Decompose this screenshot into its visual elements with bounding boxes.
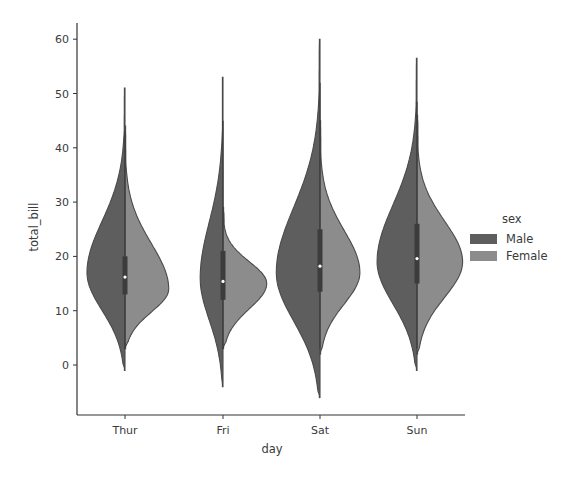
legend-swatch-female [470, 251, 497, 261]
violin-male-sun [377, 58, 417, 370]
y-tick-label: 20 [55, 250, 69, 263]
iqr-box-fri [221, 251, 226, 300]
y-tick-label: 30 [55, 196, 69, 209]
y-axis-ticks: 0102030405060 [55, 33, 77, 372]
median-dot-sun [415, 257, 418, 260]
x-axis-label: day [261, 442, 282, 456]
iqr-box-sun [415, 224, 420, 284]
y-tick-label: 0 [62, 359, 69, 372]
y-axis-label: total_bill [27, 203, 41, 252]
y-tick-label: 10 [55, 305, 69, 318]
y-tick-label: 50 [55, 88, 69, 101]
violin-female-fri [223, 208, 267, 349]
legend-item-male: Male [470, 230, 548, 247]
iqr-box-sat [318, 229, 323, 291]
median-dot-sat [318, 265, 321, 268]
violin-female-sat [320, 121, 360, 354]
x-tick-label-fri: Fri [216, 424, 229, 437]
x-axis-ticks: ThurFriSatSun [111, 415, 427, 437]
violin-male-fri [200, 77, 223, 387]
violin-plot-area [87, 39, 463, 397]
legend-item-female: Female [470, 247, 548, 264]
x-tick-label-sat: Sat [311, 424, 330, 437]
iqr-box-thur [123, 256, 128, 294]
violin-male-sat [276, 39, 320, 397]
legend-swatch-male [470, 234, 497, 244]
legend: sex Male Female [470, 212, 548, 264]
legend-label-male: Male [506, 232, 533, 246]
y-tick-label: 60 [55, 33, 69, 46]
median-dot-thur [123, 275, 126, 278]
legend-title: sex [502, 212, 548, 226]
violin-male-thur [87, 88, 125, 370]
median-dot-fri [221, 280, 224, 283]
x-tick-label-sun: Sun [407, 424, 428, 437]
legend-label-female: Female [506, 249, 548, 263]
violin-female-sun [417, 115, 463, 354]
violin-female-thur [125, 126, 169, 349]
x-tick-label-thur: Thur [111, 424, 138, 437]
y-tick-label: 40 [55, 142, 69, 155]
